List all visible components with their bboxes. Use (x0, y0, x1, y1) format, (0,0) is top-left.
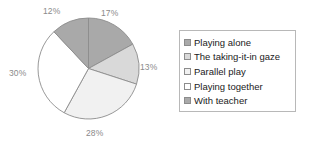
legend-item-label: Parallel play (194, 66, 246, 77)
legend-item-label: Playing together (194, 81, 263, 92)
pie-label-with-teacher: 12% (43, 6, 60, 16)
legend-swatch-icon (184, 83, 191, 90)
legend-item-label: Playing alone (194, 37, 251, 48)
pie-label-taking-it-in-gaze: 13% (140, 62, 157, 72)
legend: Playing aloneThe taking-it-in gazeParall… (179, 30, 296, 112)
pie-label-playing-alone: 17% (101, 8, 118, 18)
legend-swatch-icon (184, 53, 191, 60)
pie-chart-figure: 17% 13% 28% 30% 12% Playing aloneThe tak… (0, 0, 313, 143)
pie-chart: 17% 13% 28% 30% 12% (0, 0, 175, 143)
pie-label-playing-together: 30% (9, 68, 26, 78)
legend-swatch-icon (184, 39, 191, 46)
legend-item-label: With teacher (194, 95, 247, 106)
legend-item[interactable]: With teacher (184, 93, 295, 108)
pie-slice-group (38, 18, 139, 119)
legend-item[interactable]: Playing alone (184, 35, 295, 50)
legend-item-label: The taking-it-in gaze (194, 51, 280, 62)
legend-swatch-icon (184, 68, 191, 75)
legend-swatch-icon (184, 97, 191, 104)
legend-item[interactable]: Parallel play (184, 64, 295, 79)
legend-item[interactable]: The taking-it-in gaze (184, 50, 295, 65)
legend-item[interactable]: Playing together (184, 79, 295, 94)
pie-label-parallel-play: 28% (86, 128, 103, 138)
